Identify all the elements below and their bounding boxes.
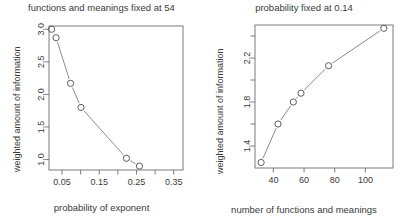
data-connector-line	[57, 42, 69, 79]
plot-area-left: 1.01.52.02.53.00.050.150.250.35	[0, 0, 203, 220]
figure-container: functions and meanings fixed at 54 weigh…	[0, 0, 405, 220]
data-point-marker	[53, 35, 59, 41]
data-connector-line	[130, 161, 135, 164]
plot-frame	[255, 25, 393, 168]
data-connector-line	[332, 31, 380, 63]
data-point-marker	[258, 159, 264, 165]
data-connector-line	[281, 106, 291, 120]
y-tick-label: 2.0	[36, 88, 46, 101]
y-tick-label: 1.0	[36, 153, 46, 166]
y-tick-label: 1.5	[36, 121, 46, 134]
data-point-marker	[275, 121, 281, 127]
plot-frame	[49, 26, 183, 170]
data-point-marker	[136, 163, 142, 169]
data-point-marker	[78, 104, 84, 110]
x-tick-label: 0.25	[128, 177, 146, 187]
chart-panel-right: probability fixed at 0.14 weighted amoun…	[203, 0, 405, 220]
data-connector-line	[84, 111, 123, 155]
x-tick-label: 0.05	[53, 177, 71, 187]
chart-panel-left: functions and meanings fixed at 54 weigh…	[0, 0, 203, 220]
y-tick-label: 1.8	[242, 96, 252, 109]
y-tick-label: 2.2	[242, 52, 252, 65]
x-tick-label: 0.15	[90, 177, 108, 187]
x-tick-label: 80	[330, 175, 340, 185]
plot-area-right: 1.41.82.2406080100	[203, 0, 405, 220]
y-tick-label: 1.4	[242, 140, 252, 153]
data-point-marker	[290, 99, 296, 105]
y-tick-label: 2.5	[36, 56, 46, 69]
x-tick-label: 60	[299, 175, 309, 185]
x-tick-label: 100	[358, 175, 373, 185]
x-tick-label: 40	[268, 175, 278, 185]
data-point-marker	[326, 63, 332, 69]
data-connector-line	[263, 128, 276, 158]
data-point-marker	[381, 25, 387, 31]
data-point-marker	[67, 80, 73, 86]
data-connector-line	[304, 69, 325, 90]
y-tick-label: 3.0	[36, 23, 46, 36]
data-connector-line	[296, 97, 298, 99]
x-tick-label: 0.35	[165, 177, 183, 187]
data-point-marker	[298, 90, 304, 96]
data-point-marker	[123, 155, 129, 161]
data-connector-line	[72, 88, 79, 104]
